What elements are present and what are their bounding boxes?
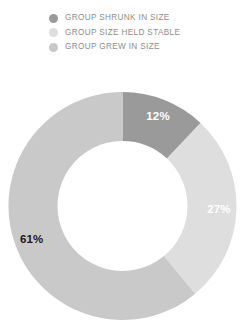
donut-slice-value-label: 61% [20, 233, 44, 245]
donut-slices [8, 92, 236, 320]
donut-chart: 12% 27% 61% [0, 0, 247, 334]
donut-slice-value-label: 12% [146, 110, 170, 122]
donut-chart-svg: 12% 27% 61% [0, 0, 247, 334]
donut-slice-value-label: 27% [207, 203, 231, 215]
